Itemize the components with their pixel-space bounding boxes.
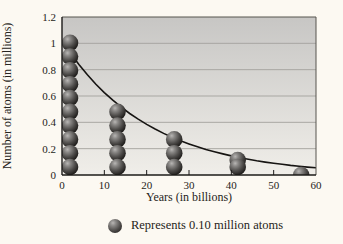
y-tick-label: 1.2 (42, 11, 56, 23)
y-tick-label: 0.6 (42, 90, 56, 102)
atom-marker-icon (108, 219, 122, 233)
x-tick-label: 0 (59, 179, 65, 191)
y-tick-label: 0.8 (42, 64, 56, 76)
atom-sphere (62, 159, 79, 176)
y-tick-label: 0.4 (42, 116, 56, 128)
atom-sphere (109, 159, 126, 176)
x-tick-label: 10 (99, 179, 111, 191)
y-tick-label: 1 (51, 37, 57, 49)
chart-legend: Represents 0.10 million atoms (0, 218, 343, 233)
y-axis-title: Number of atoms (in millions) (0, 23, 14, 170)
decay-chart: 00.20.40.60.811.20102030405060 Number of… (0, 0, 343, 208)
atom-sphere (229, 159, 246, 176)
x-tick-label: 50 (268, 179, 280, 191)
atom-sphere (166, 159, 183, 176)
legend-label: Represents 0.10 million atoms (131, 218, 283, 233)
decay-chart-figure: 00.20.40.60.811.20102030405060 Number of… (0, 0, 343, 244)
x-axis-title: Years (in billions) (146, 190, 232, 204)
y-tick-label: 0 (51, 169, 57, 181)
y-tick-label: 0.2 (42, 143, 56, 155)
x-tick-label: 60 (311, 179, 323, 191)
